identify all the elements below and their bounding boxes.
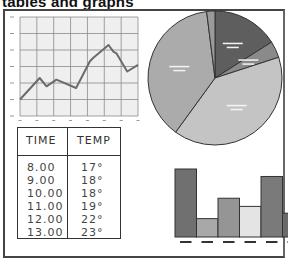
bar <box>261 176 283 237</box>
x-tick-label <box>86 120 89 121</box>
bar <box>197 219 219 237</box>
pie-slice-label <box>231 109 243 111</box>
bar-category-label <box>202 241 214 243</box>
y-tick-label <box>10 83 14 84</box>
pie-slice-label <box>173 70 185 72</box>
bar <box>218 198 240 237</box>
cell-temp: 19° <box>81 200 104 213</box>
y-tick-label <box>10 17 14 18</box>
y-tick-label <box>10 99 14 100</box>
x-tick-label <box>52 120 55 121</box>
cell-temp: 18° <box>81 187 104 200</box>
header-temp: TEMP <box>77 134 111 147</box>
cell-time: 11.00 <box>27 200 64 213</box>
pie-slice-label <box>227 105 247 107</box>
header-time: TIME <box>26 134 56 147</box>
bar <box>175 169 197 237</box>
cell-temp: 23° <box>81 226 104 239</box>
cell-time: 12.00 <box>27 213 64 226</box>
y-tick-label <box>10 33 14 34</box>
bar-category-label <box>223 241 235 243</box>
bar-category-label <box>266 241 278 243</box>
bar <box>240 206 262 237</box>
x-tick-label <box>69 120 72 121</box>
x-tick-label <box>35 120 38 121</box>
x-tick-label <box>103 120 106 121</box>
cell-temp: 18° <box>81 174 104 187</box>
x-tick-label <box>120 120 123 121</box>
pie-slice-label <box>169 66 189 68</box>
pie-slice-label <box>227 47 239 49</box>
x-tick-label <box>19 120 22 121</box>
cell-time: 8.00 <box>27 161 56 174</box>
cell-time: 13.00 <box>27 226 64 239</box>
bar-category-label <box>180 241 192 243</box>
pie-slice-label <box>242 63 254 64</box>
y-tick-label <box>10 116 14 117</box>
pie-slice-label <box>223 43 243 45</box>
cell-temp: 17° <box>81 161 104 174</box>
cell-temp: 22° <box>81 213 104 226</box>
y-tick-label <box>10 50 14 51</box>
bar <box>283 213 289 237</box>
bar-category-label <box>288 241 289 243</box>
cell-time: 10.00 <box>27 187 64 200</box>
cell-time: 9.00 <box>27 174 56 187</box>
header-divider <box>18 155 120 156</box>
column-divider <box>67 128 68 238</box>
pie-slice-label <box>238 59 258 61</box>
x-tick-label <box>137 120 140 121</box>
bar-category-label <box>245 241 257 243</box>
temperature-table: TIME TEMP 8.0017°9.0018°10.0018°11.0019°… <box>17 127 121 239</box>
y-tick-label <box>10 66 14 67</box>
